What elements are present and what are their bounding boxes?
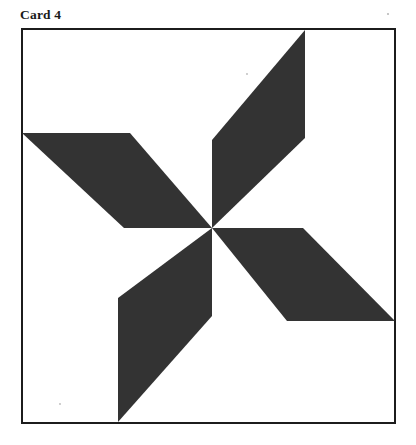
pinwheel-figure [0,0,416,445]
paper-speck [387,13,389,15]
paper-speck [246,73,248,75]
paper-speck [59,403,61,405]
figure-container [0,0,416,445]
page-canvas: Card 4 [0,0,416,445]
